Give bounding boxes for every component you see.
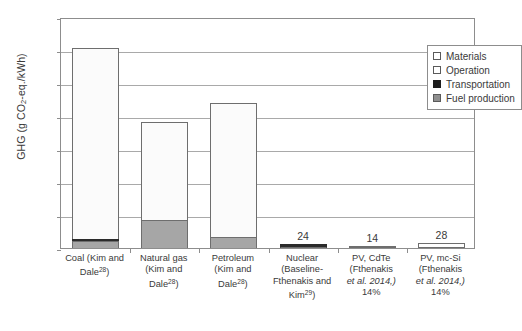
bar-segment-fuel xyxy=(72,241,119,248)
legend-swatch-transportation-icon xyxy=(433,80,441,88)
y-axis-tick-mark xyxy=(57,250,61,251)
bar-segment-materials xyxy=(418,243,465,248)
legend-item: Materials xyxy=(433,49,515,63)
bar-series-group: 241428 xyxy=(61,19,474,248)
bar-value-label: 14 xyxy=(366,232,378,244)
bar-value-label: 24 xyxy=(297,230,309,242)
bar-segment-fuel xyxy=(210,237,257,248)
bar[interactable]: 14 xyxy=(349,246,396,248)
legend-label-fuel-production: Fuel production xyxy=(446,93,515,104)
plot-area: 1400120010008006004002000 241428 Materia… xyxy=(60,18,475,249)
bar[interactable]: 24 xyxy=(280,244,327,248)
legend-swatch-operation-icon xyxy=(433,66,441,74)
x-axis-label-line: 14% xyxy=(400,287,481,298)
legend-item: Operation xyxy=(433,63,515,77)
bar[interactable] xyxy=(141,122,188,248)
legend-label-transportation: Transportation xyxy=(446,79,510,90)
bar[interactable] xyxy=(210,103,257,248)
legend-swatch-materials-icon xyxy=(433,52,441,60)
x-axis-label-line: et al. 2014,) xyxy=(400,276,481,287)
legend-swatch-fuel-production-icon xyxy=(433,94,441,102)
bar[interactable] xyxy=(72,48,119,248)
x-axis-label-line: (Fthenakis xyxy=(400,264,481,275)
bar-segment-operation xyxy=(210,103,257,237)
bar-segment-materials xyxy=(349,246,396,248)
x-axis-label: PV, mc-Si(Fthenakiset al. 2014,)14% xyxy=(400,253,481,299)
y-axis-title-tail: -eq./kWh) xyxy=(15,53,27,99)
legend: Materials Operation Transportation Fuel … xyxy=(427,45,522,110)
bar-segment-operation xyxy=(141,122,188,220)
legend-item: Fuel production xyxy=(433,91,515,105)
bar-segment-operation xyxy=(72,48,119,239)
legend-label-operation: Operation xyxy=(446,65,490,76)
bar[interactable]: 28 xyxy=(418,243,465,248)
bar-segment-fuel xyxy=(141,220,188,248)
y-axis-title-subscript: 2 xyxy=(19,100,28,104)
y-axis-title-main: GHG (g CO xyxy=(15,104,27,160)
y-axis-title: GHG (g CO2-eq./kWh) xyxy=(15,12,28,202)
bar-value-label: 28 xyxy=(436,229,448,241)
x-axis-labels: Coal (Kim andDale28)Natural gas(Kim andD… xyxy=(60,253,475,329)
legend-label-materials: Materials xyxy=(446,51,487,62)
bar-segment-transportation xyxy=(280,244,327,248)
legend-item: Transportation xyxy=(433,77,515,91)
x-axis-label-line: PV, mc-Si xyxy=(400,253,481,264)
